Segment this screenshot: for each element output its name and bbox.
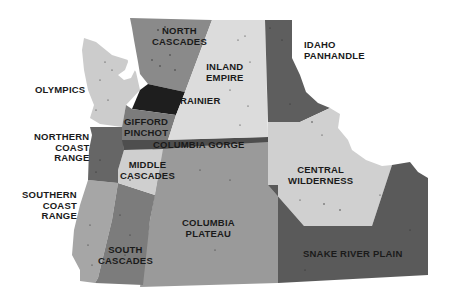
label-southern-coast-range: SOUTHERN COAST RANGE — [22, 190, 77, 222]
label-olympics: OLYMPICS — [35, 85, 85, 96]
label-snake-river-plain: SNAKE RIVER PLAIN — [303, 249, 402, 260]
label-rainier: RAINIER — [180, 96, 220, 107]
label-idaho-panhandle: IDAHO PANHANDLE — [304, 40, 365, 61]
label-columbia-gorge: COLUMBIA GORGE — [153, 140, 245, 151]
label-inland-empire: INLAND EMPIRE — [206, 62, 244, 83]
label-northern-coast-range: NORTHERN COAST RANGE — [34, 132, 89, 164]
label-central-wilderness: CENTRAL WILDERNESS — [288, 165, 353, 186]
label-north-cascades: NORTH CASCADES — [152, 26, 207, 47]
label-south-cascades: SOUTH CASCADES — [98, 245, 153, 266]
region-idaho-panhandle[interactable] — [265, 20, 330, 122]
label-columbia-plateau: COLUMBIA PLATEAU — [182, 218, 235, 239]
label-middle-cascades: MIDDLE CASCADES — [120, 160, 175, 181]
label-gifford-pinchot: GIFFORD PINCHOT — [124, 117, 168, 138]
